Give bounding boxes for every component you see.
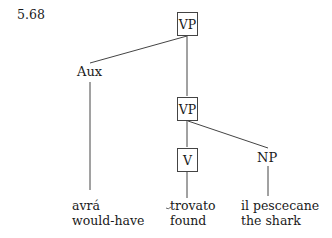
leaf-np-gloss: the shark <box>241 213 301 228</box>
node-v: V <box>177 148 198 172</box>
leaf-v-word: trovato <box>170 198 216 213</box>
leaf-aux-gloss: would-have <box>72 213 144 228</box>
node-vp-root: VP <box>177 12 198 36</box>
edge-vp-aux <box>90 36 187 63</box>
leaf-v-gloss: found <box>170 213 206 228</box>
node-np: NP <box>257 150 277 165</box>
node-aux: Aux <box>77 64 102 79</box>
example-number: 5.68 <box>17 7 45 22</box>
edge-vp-np <box>188 121 268 148</box>
node-label: VP <box>179 17 196 32</box>
node-vp-inner: VP <box>177 97 198 121</box>
node-label: V <box>183 153 192 168</box>
leaf-np-word: il pescecane <box>241 198 319 213</box>
node-label: VP <box>179 102 196 117</box>
leaf-aux-word: avrá <box>72 198 100 213</box>
